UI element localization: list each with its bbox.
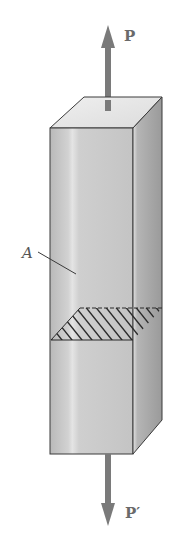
arrow-down-icon — [101, 454, 115, 526]
force-label-p: P — [124, 27, 135, 45]
bar-front-face — [50, 128, 133, 454]
bar-side-face — [133, 97, 162, 454]
force-label-p-prime: P′ — [125, 504, 140, 522]
axial-load-bar-diagram: P A — [0, 0, 193, 537]
prismatic-bar — [50, 97, 162, 454]
area-label-a: A — [20, 244, 33, 262]
